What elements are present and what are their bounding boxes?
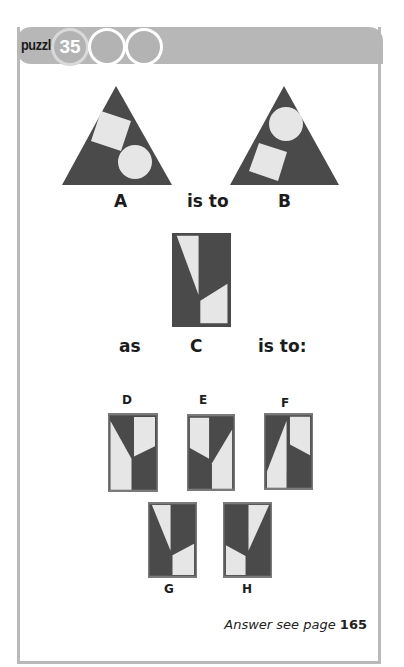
option-d-label: D (122, 393, 132, 407)
option-d-figure[interactable] (108, 413, 158, 492)
connector-is-to: is to (187, 191, 229, 211)
figure-a-label: A (114, 191, 127, 211)
connector-is-to-colon: is to: (258, 336, 306, 356)
option-e-label: E (199, 393, 207, 407)
option-g-figure[interactable] (148, 502, 197, 578)
option-h-figure[interactable] (223, 502, 272, 578)
figure-b-label: B (278, 191, 291, 211)
option-h-label: H (242, 582, 252, 596)
option-f-label: F (281, 396, 289, 410)
figure-c (172, 233, 231, 327)
option-e-figure[interactable] (187, 414, 235, 491)
option-g-label: G (164, 582, 174, 596)
as-label: as (119, 336, 141, 356)
option-f-figure[interactable] (264, 413, 313, 490)
answer-reference: Answer see page 165 (224, 617, 367, 632)
answer-text: Answer see page (224, 617, 335, 632)
figure-c-label: C (190, 336, 202, 356)
answer-page-number: 165 (340, 617, 367, 632)
figure-a-triangle (0, 0, 404, 667)
